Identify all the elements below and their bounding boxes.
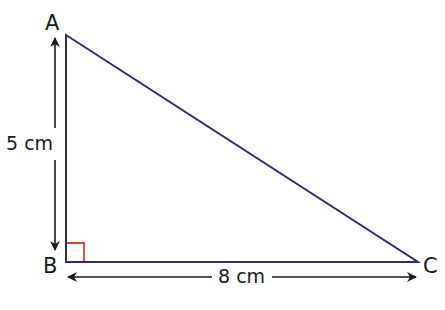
right-angle-marker (66, 243, 84, 262)
vertex-label-b: B (43, 256, 57, 277)
vertex-label-c: C (423, 256, 438, 277)
side-bc-length: 8 cm (216, 267, 267, 286)
diagram-canvas (0, 0, 445, 310)
side-ab-length: 5 cm (4, 134, 55, 153)
triangle-diagram: A B C 5 cm 8 cm (0, 0, 445, 310)
triangle-abc (66, 35, 418, 262)
vertex-label-a: A (45, 13, 59, 34)
